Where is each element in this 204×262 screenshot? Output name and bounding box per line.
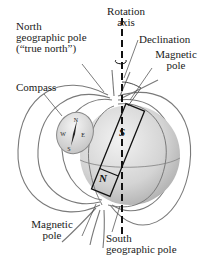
label-line: axis — [106, 17, 146, 28]
magnet-south-letter: S — [119, 126, 125, 138]
compass-e: E — [81, 132, 85, 138]
declination-leader — [124, 40, 138, 78]
south-geographic-pole-label: South geographic pole — [106, 233, 177, 255]
field-line — [103, 210, 104, 248]
north-geo-leader — [82, 64, 104, 92]
label-line: pole — [152, 60, 200, 71]
north-geographic-pole-label: North geographic pole (“true north”) — [16, 21, 87, 54]
compass-s: S — [67, 146, 70, 152]
magnetic-pole-bottom-label: Magnetic pole — [26, 219, 78, 241]
label-line: (“true north”) — [16, 43, 87, 54]
rotation-axis-label: Rotation axis — [106, 6, 146, 28]
declination-label: Declination — [139, 34, 190, 45]
label-line: pole — [26, 230, 78, 241]
rotation-arrow-icon — [115, 60, 126, 64]
compass-w: W — [60, 131, 66, 137]
label-line: geographic pole — [106, 244, 177, 255]
field-line — [112, 70, 114, 96]
magnetic-pole-top-label: Magnetic pole — [152, 49, 200, 71]
compass-label: Compass — [16, 82, 56, 93]
south-geo-leader — [112, 206, 120, 232]
magnetic-axis — [128, 88, 141, 106]
field-line — [90, 210, 100, 245]
compass-n: N — [74, 117, 79, 123]
magnet-north-letter: N — [98, 172, 108, 184]
